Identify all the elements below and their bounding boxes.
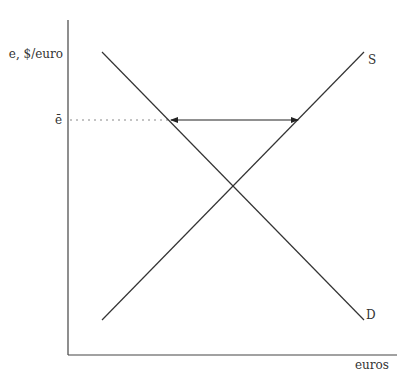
demand-label: D: [366, 308, 376, 322]
supply-label: S: [368, 53, 376, 67]
y-axis-label: e, $/euro: [9, 47, 63, 61]
supply-demand-diagram: e, $/euro euros ē S D: [0, 0, 416, 377]
price-level-label: ē: [55, 113, 62, 127]
x-axis-label: euros: [355, 358, 389, 372]
